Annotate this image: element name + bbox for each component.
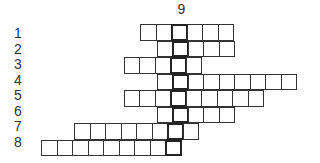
grid-cell[interactable]	[157, 107, 174, 124]
grid-cell[interactable]	[124, 90, 141, 107]
grid-cell[interactable]	[234, 74, 251, 91]
grid-cell[interactable]	[232, 90, 249, 107]
grid-row-8	[41, 140, 181, 157]
grid-cell[interactable]	[139, 57, 156, 74]
grid-cell[interactable]	[134, 140, 151, 157]
row-label-4: 4	[14, 73, 28, 87]
key-column-cell[interactable]	[172, 41, 189, 58]
grid-cell[interactable]	[136, 123, 153, 140]
row-label-6: 6	[14, 104, 28, 118]
grid-cell[interactable]	[140, 24, 157, 41]
row-label-8: 8	[14, 135, 28, 149]
grid-row-5	[124, 90, 264, 107]
grid-cell[interactable]	[188, 107, 205, 124]
grid-row-1	[140, 24, 233, 41]
grid-cell[interactable]	[219, 41, 236, 58]
grid-cell[interactable]	[124, 57, 141, 74]
key-column-cell[interactable]	[172, 107, 189, 124]
row-label-3: 3	[14, 57, 28, 71]
grid-cell[interactable]	[183, 123, 200, 140]
key-column-cell[interactable]	[171, 24, 188, 41]
grid-cell[interactable]	[203, 107, 220, 124]
grid-cell[interactable]	[186, 57, 203, 74]
grid-cell[interactable]	[72, 140, 89, 157]
grid-cell[interactable]	[203, 74, 220, 91]
key-column-cell[interactable]	[165, 140, 182, 157]
row-label-5: 5	[14, 88, 28, 102]
grid-row-3	[124, 57, 202, 74]
grid-cell[interactable]	[187, 24, 204, 41]
grid-cell[interactable]	[41, 140, 58, 157]
grid-cell[interactable]	[74, 123, 91, 140]
grid-cell[interactable]	[219, 107, 236, 124]
grid-cell[interactable]	[157, 74, 174, 91]
grid-cell[interactable]	[218, 24, 235, 41]
grid-row-4	[157, 74, 297, 91]
grid-cell[interactable]	[217, 90, 234, 107]
grid-cell[interactable]	[248, 90, 265, 107]
grid-cell[interactable]	[103, 140, 120, 157]
grid-cell[interactable]	[121, 123, 138, 140]
column-label-9: 9	[173, 1, 190, 17]
grid-cell[interactable]	[203, 41, 220, 58]
grid-cell[interactable]	[119, 140, 136, 157]
grid-cell[interactable]	[88, 140, 105, 157]
grid-cell[interactable]	[186, 90, 203, 107]
grid-cell[interactable]	[202, 24, 219, 41]
row-label-1: 1	[14, 26, 28, 40]
grid-row-2	[157, 41, 235, 58]
grid-cell[interactable]	[250, 74, 267, 91]
key-column-cell[interactable]	[170, 90, 187, 107]
grid-cell[interactable]	[152, 123, 169, 140]
grid-cell[interactable]	[281, 74, 298, 91]
grid-cell[interactable]	[219, 74, 236, 91]
grid-cell[interactable]	[188, 41, 205, 58]
grid-cell[interactable]	[265, 74, 282, 91]
grid-cell[interactable]	[155, 57, 172, 74]
key-column-cell[interactable]	[172, 74, 189, 91]
grid-cell[interactable]	[90, 123, 107, 140]
grid-cell[interactable]	[150, 140, 167, 157]
grid-cell[interactable]	[105, 123, 122, 140]
grid-cell[interactable]	[188, 74, 205, 91]
row-label-2: 2	[14, 42, 28, 56]
grid-cell[interactable]	[155, 90, 172, 107]
key-column-cell[interactable]	[167, 123, 184, 140]
row-label-7: 7	[14, 119, 28, 133]
grid-row-6	[157, 107, 235, 124]
grid-cell[interactable]	[157, 41, 174, 58]
grid-cell[interactable]	[156, 24, 173, 41]
grid-cell[interactable]	[57, 140, 74, 157]
key-column-cell[interactable]	[170, 57, 187, 74]
grid-row-7	[74, 123, 198, 140]
grid-cell[interactable]	[201, 90, 218, 107]
grid-cell[interactable]	[139, 90, 156, 107]
